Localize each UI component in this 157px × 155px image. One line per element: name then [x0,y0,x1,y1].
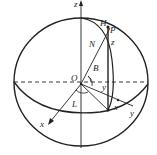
z-arrow-icon [79,0,83,6]
label-x-small: x [113,103,118,112]
angle-L-arc [76,90,88,93]
point-foot [107,109,110,112]
label-P: P [109,25,116,35]
label-z-small: z [110,37,115,47]
point-origin [80,83,82,85]
y-axis [81,84,133,106]
label-x-axis: x [39,119,44,129]
label-H: H [99,18,107,28]
diagram-canvas: z H P N z B O y L x x y [0,0,157,155]
normal-line-N [81,28,110,84]
label-z-axis: z [73,0,78,9]
x-arrow-icon [48,118,54,125]
point-x-small [117,99,119,101]
ellipsoid-diagram: z H P N z B O y L x x y [0,0,157,155]
label-y-axis: y [129,108,134,118]
label-y-angle: y [101,82,106,92]
label-N: N [88,39,96,49]
label-L: L [71,99,77,109]
label-O: O [71,73,78,83]
angle-B-full [88,76,92,86]
label-B: B [93,63,99,73]
